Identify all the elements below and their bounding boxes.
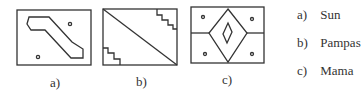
- legend-label: Sun: [320, 7, 340, 22]
- legend-label: Mama: [320, 63, 353, 78]
- legend-item-c: c) Mama: [297, 63, 353, 79]
- figure-a-caption: a): [50, 75, 60, 91]
- legend-key: c): [297, 63, 317, 79]
- figure-b-caption: b): [136, 74, 147, 90]
- legend-item-b: b) Pampas: [297, 35, 361, 51]
- figure-c-caption: c): [222, 72, 232, 88]
- legend-label: Pampas: [320, 35, 360, 50]
- legend-key: b): [297, 35, 317, 51]
- figure-a-drawing: [17, 10, 91, 65]
- figure-b-drawing: [103, 9, 177, 65]
- legend-key: a): [297, 7, 317, 23]
- figure-c-drawing: [191, 7, 264, 63]
- legend-item-a: a) Sun: [297, 7, 340, 23]
